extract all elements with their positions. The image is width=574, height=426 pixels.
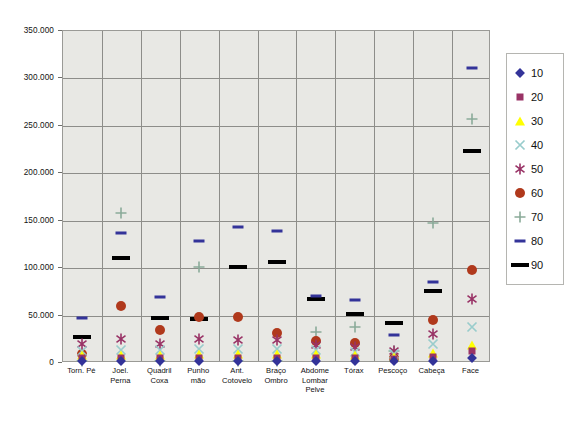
data-point-80-6 [310,295,321,298]
data-point-90-3 [190,317,208,321]
legend-marker-circle-icon [513,186,527,200]
data-point-70-8 [387,344,400,357]
vertical-gridline [335,31,336,361]
data-point-70-9 [426,216,439,229]
y-axis-tick-label: 350.000 [24,26,54,35]
legend-item-90[interactable]: 90 [513,253,559,277]
legend-marker-diamond-icon [513,66,527,80]
legend-label: 20 [531,91,543,103]
data-point-20-0 [79,354,86,361]
y-axis-tick-label: 200.000 [24,168,54,177]
data-point-90-8 [385,321,403,325]
data-point-90-10 [463,149,481,153]
data-point-60-9 [428,315,438,325]
legend-marker-dash-thin-icon [513,234,527,248]
data-point-90-0 [73,335,91,339]
vertical-gridline [296,31,297,361]
data-point-80-5 [272,230,283,233]
data-point-40-3 [194,344,205,355]
data-point-80-10 [466,67,477,70]
x-axis-tick-label: Face [462,366,479,376]
data-point-80-4 [233,225,244,228]
x-axis-tick-label: Ant. Cotovelo [222,366,252,385]
data-point-10-4 [233,356,243,366]
legend-label: 80 [531,235,543,247]
data-point-80-8 [388,333,399,336]
data-point-50-0 [76,338,89,351]
data-point-50-1 [115,333,128,346]
data-point-30-0 [77,350,87,359]
vertical-gridline [374,31,375,361]
data-point-30-5 [272,349,282,358]
data-point-10-6 [311,356,321,366]
data-point-80-7 [349,298,360,301]
legend-marker-triangle-icon [513,114,527,128]
data-point-30-3 [194,350,204,359]
data-point-30-8 [389,352,399,361]
data-point-40-2 [155,345,166,356]
data-point-80-3 [194,239,205,242]
x-axis-tick-label: Abdome Lombar Pelve [301,366,329,395]
data-point-50-5 [271,334,284,347]
data-point-80-9 [427,281,438,284]
y-axis: 050.000100.000150.000200.000250.000300.0… [0,0,62,400]
vertical-gridline [258,31,259,361]
data-point-10-8 [389,356,399,366]
data-point-30-1 [116,350,126,359]
data-point-10-10 [467,353,477,363]
data-point-40-0 [77,345,88,356]
data-point-60-8 [389,353,399,363]
data-point-60-2 [155,325,165,335]
legend-marker-square-icon [513,90,527,104]
x-axis-tick-label: Punho mão [187,366,209,385]
legend-item-30[interactable]: 30 [513,109,559,133]
data-point-60-4 [233,312,243,322]
data-point-60-10 [467,265,477,275]
x-axis-tick-label: Cabeça [419,366,445,376]
data-point-40-7 [349,346,360,357]
legend-item-10[interactable]: 10 [513,61,559,85]
legend-item-70[interactable]: 70 [513,205,559,229]
legend-marker-asterisk-icon [513,162,527,176]
legend-marker-dash-thick-icon [513,258,527,272]
y-axis-tick-label: 50.000 [28,310,54,319]
vertical-gridline [413,31,414,361]
data-point-90-9 [424,289,442,293]
data-point-30-9 [428,348,438,357]
data-point-80-2 [155,295,166,298]
legend-item-60[interactable]: 60 [513,181,559,205]
data-point-40-4 [233,344,244,355]
x-axis-tick-label: Braço Ombro [264,366,287,385]
chart-container: 050.000100.000150.000200.000250.000300.0… [0,0,574,426]
horizontal-gridline [63,78,489,79]
x-axis-tick-label: Pescoço [378,366,407,376]
x-axis: Torn. PéJoel. PernaQuadril CoxaPunho mão… [62,366,490,420]
data-point-10-1 [116,356,126,366]
data-point-50-2 [154,338,167,351]
data-point-90-1 [112,256,130,260]
y-axis-tick-label: 250.000 [24,120,54,129]
legend-item-20[interactable]: 20 [513,85,559,109]
legend-label: 50 [531,163,543,175]
vertical-gridline [180,31,181,361]
legend-marker-cross-x-icon [513,138,527,152]
legend-item-40[interactable]: 40 [513,133,559,157]
x-axis-tick-label: Torn. Pé [67,366,95,376]
legend-item-50[interactable]: 50 [513,157,559,181]
legend-item-80[interactable]: 80 [513,229,559,253]
data-point-70-10 [465,113,478,126]
data-point-60-6 [311,336,321,346]
data-point-50-9 [426,327,439,340]
chart-legend: 102030405060708090 [506,53,564,285]
data-point-10-2 [155,356,165,366]
horizontal-gridline [63,126,489,127]
plot-area [62,30,490,362]
data-point-20-6 [312,354,319,361]
data-point-40-6 [310,345,321,356]
legend-label: 40 [531,139,543,151]
legend-label: 70 [531,211,543,223]
data-point-60-1 [116,301,126,311]
x-axis-tick-label: Joel. Perna [110,366,130,385]
y-axis-tick-label: 300.000 [24,73,54,82]
y-axis-tick-mark [58,362,62,363]
